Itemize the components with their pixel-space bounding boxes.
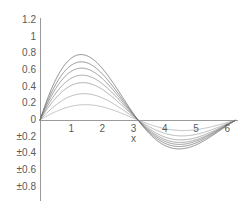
y-axis-tick-label: ±0.8 — [17, 181, 36, 192]
x-axis-tick-label: 1 — [61, 123, 81, 134]
y-axis-tick-label: ±0.6 — [17, 164, 36, 175]
y-axis-tick-label: ±0.2 — [17, 131, 36, 142]
x-axis-tick-label: 6 — [217, 123, 237, 134]
y-axis-tick-label: ±0.4 — [17, 147, 36, 158]
y-axis-tick-label: 0.2 — [22, 97, 36, 108]
chart-container: 1.210.80.60.40.20±0.2±0.4±0.6±0.8 123456… — [0, 0, 243, 216]
x-axis-tick-label: 2 — [92, 123, 112, 134]
x-axis-tick-label: 5 — [186, 123, 206, 134]
y-axis-tick-label: 1 — [30, 31, 36, 42]
x-axis-title: x — [124, 133, 144, 144]
y-axis-tick-label: 0.4 — [22, 81, 36, 92]
y-axis-tick-label: 0 — [30, 114, 36, 125]
y-axis-tick-label: 0.6 — [22, 64, 36, 75]
y-axis-tick-label: 1.2 — [22, 14, 36, 25]
plot-area — [0, 0, 243, 216]
axis-lines — [40, 18, 238, 201]
x-axis-tick-label: 4 — [155, 123, 175, 134]
y-axis-tick-label: 0.8 — [22, 47, 36, 58]
